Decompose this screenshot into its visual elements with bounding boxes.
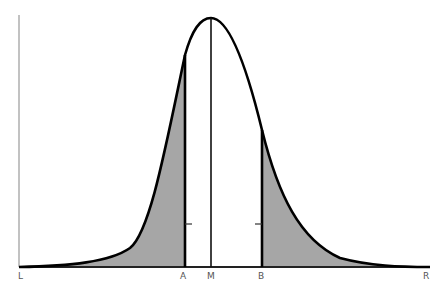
distribution-curve	[19, 18, 430, 267]
label-b: B	[258, 271, 264, 281]
label-a: A	[180, 271, 187, 281]
distribution-diagram: L A M B R	[0, 0, 444, 293]
right-tail-shaded-region	[262, 130, 430, 267]
label-l: L	[18, 271, 23, 281]
left-tail-shaded-region	[19, 55, 185, 267]
label-r: R	[423, 271, 429, 281]
label-m: M	[207, 271, 215, 281]
